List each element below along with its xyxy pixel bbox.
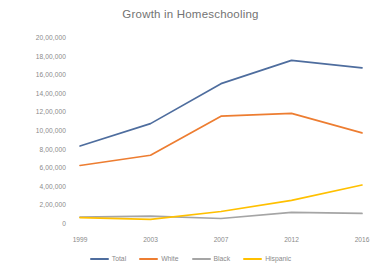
chart-container: Growth in Homeschooling 02,00,0004,00,00… — [0, 0, 381, 275]
legend-label: White — [161, 255, 178, 262]
legend-label: Total — [112, 255, 126, 262]
x-axis-tick-label: 2007 — [198, 236, 244, 243]
x-axis-tick-label: 2003 — [128, 236, 174, 243]
x-axis-tick-label: 1999 — [57, 236, 103, 243]
x-axis-tick-label: 2012 — [269, 236, 315, 243]
x-axis-tick-label: 2016 — [339, 236, 381, 243]
x-axis: 19992003200720122016 — [0, 0, 381, 275]
legend-label: Black — [214, 255, 231, 262]
legend-swatch-total — [90, 258, 109, 260]
legend-swatch-black — [192, 258, 211, 260]
chart-legend: TotalWhiteBlackHispanic — [0, 255, 381, 262]
legend-item-black[interactable]: Black — [192, 255, 231, 262]
legend-label: Hispanic — [265, 255, 291, 262]
legend-item-total[interactable]: Total — [90, 255, 126, 262]
legend-item-white[interactable]: White — [139, 255, 178, 262]
legend-swatch-hispanic — [243, 258, 262, 260]
legend-swatch-white — [139, 258, 158, 260]
legend-item-hispanic[interactable]: Hispanic — [243, 255, 291, 262]
